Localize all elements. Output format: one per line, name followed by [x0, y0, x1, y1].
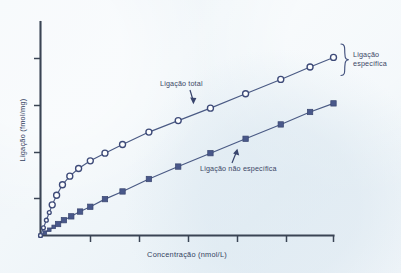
data-point-total — [54, 192, 60, 198]
annotation-total-binding: Ligação total — [160, 79, 203, 104]
binding-assay-chart: Ligação total Ligação não específica Lig… — [0, 0, 401, 273]
data-point-nonspecific — [47, 228, 51, 232]
data-point-nonspecific — [278, 122, 283, 127]
series-nonspecific-group — [39, 101, 336, 238]
data-point-total — [42, 226, 46, 230]
data-point-total — [44, 218, 48, 222]
data-point-nonspecific — [77, 209, 82, 214]
annotation-nonspecific-binding-arrowhead — [233, 149, 239, 156]
x-axis-title: Concentração (nmol/L) — [147, 250, 227, 259]
specific-binding-label-line1: Ligação — [353, 50, 379, 59]
y-axis-title: Ligação (fmol/mg) — [18, 99, 27, 162]
data-point-nonspecific — [243, 136, 248, 141]
nonspecific-binding-markers — [39, 101, 336, 238]
data-point-total — [102, 150, 108, 156]
annotation-specific-binding: Ligação específica — [341, 44, 387, 76]
data-point-total — [47, 211, 51, 215]
data-point-total — [207, 105, 213, 111]
data-point-nonspecific — [55, 221, 60, 226]
data-point-total — [331, 54, 337, 60]
annotation-total-binding-label: Ligação total — [160, 79, 203, 88]
figure-canvas: Ligação total Ligação não específica Lig… — [0, 0, 401, 273]
data-point-total — [278, 76, 284, 82]
data-point-total — [49, 202, 55, 208]
data-point-total — [59, 182, 65, 188]
data-point-nonspecific — [102, 196, 107, 201]
data-point-nonspecific — [43, 231, 47, 235]
data-point-total — [87, 158, 93, 164]
data-point-nonspecific — [208, 150, 213, 155]
data-point-total — [243, 91, 249, 97]
data-point-total — [307, 64, 313, 70]
data-point-nonspecific — [69, 214, 74, 219]
data-point-total — [76, 165, 82, 171]
data-point-total — [146, 129, 152, 135]
specific-binding-label-line2: específica — [353, 59, 387, 68]
data-point-nonspecific — [61, 217, 66, 222]
data-point-nonspecific — [176, 164, 181, 169]
data-point-nonspecific — [146, 176, 151, 181]
data-point-total — [175, 118, 181, 124]
data-point-nonspecific — [331, 101, 336, 106]
data-point-total — [39, 234, 43, 238]
data-point-total — [120, 142, 126, 148]
annotation-nonspecific-binding-label: Ligação não específica — [200, 164, 277, 173]
annotation-nonspecific-binding-arrow — [232, 153, 236, 163]
data-point-nonspecific — [120, 189, 125, 194]
nonspecific-binding-line — [41, 103, 334, 235]
specific-binding-brace — [341, 44, 349, 76]
annotation-total-binding-arrowhead — [190, 98, 196, 105]
data-point-total — [67, 173, 73, 179]
data-point-nonspecific — [88, 204, 93, 209]
data-point-nonspecific — [52, 225, 56, 229]
data-point-nonspecific — [307, 109, 312, 114]
